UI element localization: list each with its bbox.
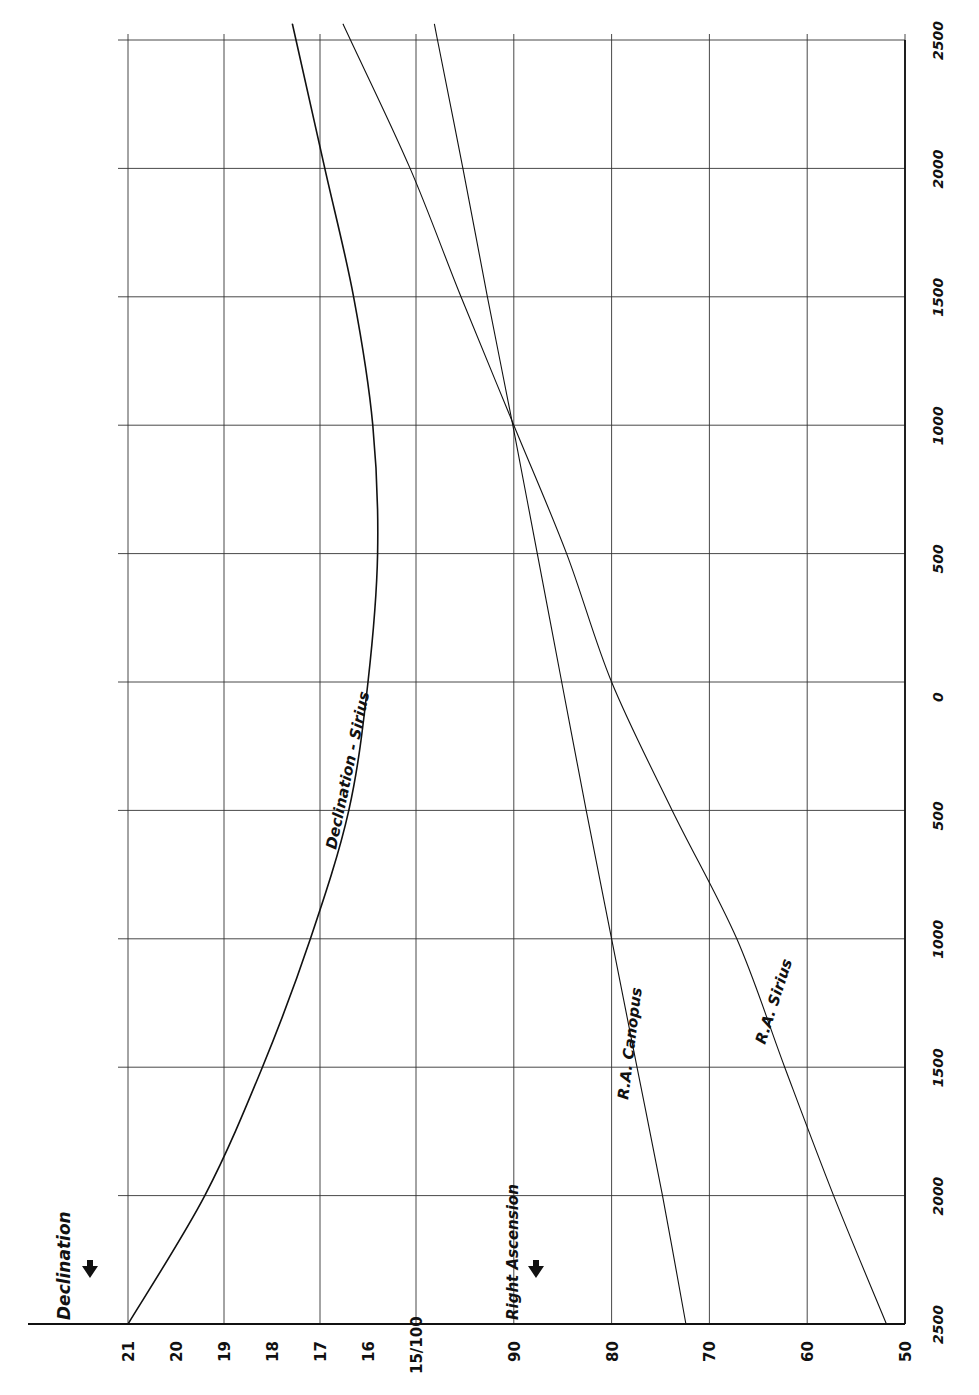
svg-text:2000: 2000 xyxy=(930,149,946,188)
svg-text:1500: 1500 xyxy=(930,278,946,317)
svg-text:1000: 1000 xyxy=(930,406,946,445)
declination-tick-label: 16 xyxy=(360,1341,378,1362)
svg-text:20: 20 xyxy=(168,1341,186,1362)
ra-axis-title: Right Ascension xyxy=(504,1184,522,1320)
svg-text:1500: 1500 xyxy=(930,1048,946,1087)
declination-axis-title: Declination xyxy=(54,1211,74,1320)
declination-tick-label: 19 xyxy=(216,1341,234,1362)
series-label-ra-canopus: R.A. Canopus xyxy=(614,986,646,1100)
declination-tick-label: 20 xyxy=(168,1341,186,1362)
svg-text:21: 21 xyxy=(120,1341,138,1362)
year-tick-label: 1000 xyxy=(930,406,946,445)
svg-text:80: 80 xyxy=(604,1341,622,1362)
ra-tick-label: 70 xyxy=(701,1341,719,1362)
svg-text:2500: 2500 xyxy=(930,21,946,60)
svg-text:70: 70 xyxy=(701,1341,719,1362)
year-tick-label: 500 xyxy=(930,801,946,830)
year-tick-label: 2000 xyxy=(930,149,946,188)
svg-text:19: 19 xyxy=(216,1341,234,1362)
svg-text:2000: 2000 xyxy=(930,1176,946,1215)
ra-title-text: Right Ascension xyxy=(504,1184,522,1320)
curve-r-a-canopus xyxy=(434,24,685,1324)
svg-text:1000: 1000 xyxy=(930,920,946,959)
ra-canopus-label: R.A. Canopus xyxy=(614,986,646,1100)
data-curves xyxy=(128,24,886,1324)
ra-tick-label: 50 xyxy=(897,1341,915,1362)
svg-text:60: 60 xyxy=(799,1341,817,1362)
svg-text:0: 0 xyxy=(930,692,946,702)
svg-text:15/100: 15/100 xyxy=(408,1316,426,1374)
svg-text:17: 17 xyxy=(312,1341,330,1362)
svg-text:500: 500 xyxy=(930,801,946,830)
shared-tick-label: 15/100 xyxy=(408,1316,426,1374)
ra-tick-label: 60 xyxy=(799,1341,817,1362)
svg-text:90: 90 xyxy=(506,1341,524,1362)
declination-tick-label: 17 xyxy=(312,1341,330,1362)
curve-r-a-sirius xyxy=(343,24,886,1324)
curve-declination-sirius xyxy=(128,24,378,1324)
year-tick-label: 1500 xyxy=(930,278,946,317)
year-tick-label: 1000 xyxy=(930,920,946,959)
declination-sirius-label: Declination - Sirius xyxy=(322,690,373,851)
ra-tick-label: 80 xyxy=(604,1341,622,1362)
svg-text:2500: 2500 xyxy=(930,1305,946,1344)
svg-text:50: 50 xyxy=(897,1341,915,1362)
year-tick-label: 2500 xyxy=(930,1305,946,1344)
year-tick-label: 0 xyxy=(930,692,946,702)
year-tick-label: 500 xyxy=(930,544,946,573)
chart-canvas: 2500200015001000500050010001500200025002… xyxy=(0,0,979,1395)
series-label-declination-sirius: Declination - Sirius xyxy=(322,690,373,851)
tick-labels: 2500200015001000500050010001500200025002… xyxy=(120,21,946,1374)
declination-title-text: Declination xyxy=(54,1211,74,1320)
ra-sirius-label: R.A. Sirius xyxy=(752,957,796,1047)
svg-text:18: 18 xyxy=(264,1341,282,1362)
series-label-ra-sirius: R.A. Sirius xyxy=(752,957,796,1047)
ra-arrow-icon xyxy=(528,1260,544,1278)
ra-tick-label: 90 xyxy=(506,1341,524,1362)
declination-tick-label: 18 xyxy=(264,1341,282,1362)
year-tick-label: 2000 xyxy=(930,1176,946,1215)
declination-arrow-icon xyxy=(82,1260,98,1278)
year-tick-label: 2500 xyxy=(930,21,946,60)
year-tick-label: 1500 xyxy=(930,1048,946,1087)
svg-text:16: 16 xyxy=(360,1341,378,1362)
svg-text:500: 500 xyxy=(930,544,946,573)
declination-tick-label: 21 xyxy=(120,1341,138,1362)
